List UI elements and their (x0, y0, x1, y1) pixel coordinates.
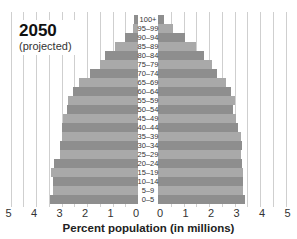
bar-right (158, 87, 231, 96)
bar-right (158, 186, 243, 195)
bar-right (158, 159, 242, 168)
bar-right (158, 168, 243, 177)
bar-right (158, 132, 241, 141)
bar-right (158, 60, 212, 69)
age-label: 15–19 (137, 168, 159, 177)
bar-left (50, 195, 138, 204)
bar-left (51, 168, 138, 177)
x-tick-label: 1 (179, 207, 193, 219)
x-tick-label: 2 (204, 207, 218, 219)
age-label: 95–99 (137, 24, 159, 33)
gridline (247, 12, 248, 207)
bar-right (158, 24, 173, 33)
bar-left (54, 159, 138, 168)
bar-right (158, 114, 236, 123)
age-label: 85–89 (137, 42, 159, 51)
bar-left (68, 96, 138, 105)
bar-left (53, 177, 138, 186)
bar-left (53, 186, 138, 195)
age-label: 80–84 (137, 51, 159, 60)
bar-right (158, 69, 217, 78)
gridline (286, 12, 287, 207)
x-tick-label: 3 (230, 207, 244, 219)
title-box: 2050 (projected) (16, 20, 75, 55)
population-pyramid-chart: 100+95–9990–9485–8980–8475–7970–7465–696… (0, 0, 297, 239)
x-tick-label: 5 (281, 207, 295, 219)
bar-left (62, 123, 139, 132)
x-tick-label: 2 (78, 207, 92, 219)
bar-left (73, 87, 138, 96)
x-tick-label: 1 (104, 207, 118, 219)
age-label: 25–29 (137, 150, 159, 159)
bar-right (158, 78, 226, 87)
bar-right (158, 96, 235, 105)
x-tick-label: 0 (129, 207, 143, 219)
bar-right (158, 177, 243, 186)
bar-left (62, 132, 139, 141)
bar-right (158, 105, 233, 114)
age-label: 0–5 (137, 195, 159, 204)
bar-right (158, 33, 185, 42)
bar-left (67, 105, 138, 114)
bar-left (115, 42, 138, 51)
age-label: 50–54 (137, 105, 159, 114)
bar-right (158, 42, 196, 51)
age-label: 20–24 (137, 159, 159, 168)
age-label: 60–64 (137, 87, 159, 96)
gridline (11, 12, 12, 207)
age-label: 45–49 (137, 114, 159, 123)
age-label: 30–34 (137, 141, 159, 150)
bar-right (158, 51, 204, 60)
age-label: 5–9 (137, 186, 159, 195)
x-tick-label: 4 (27, 207, 41, 219)
bar-right (158, 141, 242, 150)
chart-title: 2050 (19, 22, 72, 40)
age-label: 35–39 (137, 132, 159, 141)
bar-left (63, 114, 138, 123)
bar-left (90, 69, 138, 78)
age-label: 65–69 (137, 78, 159, 87)
bar-right (158, 150, 241, 159)
bar-right (158, 123, 238, 132)
x-axis-label: Percent population (in millions) (0, 222, 297, 234)
x-tick-label: 3 (53, 207, 67, 219)
bar-left (60, 141, 138, 150)
x-tick-label: 5 (2, 207, 16, 219)
age-label: 55–59 (137, 96, 159, 105)
bar-left (79, 78, 138, 87)
age-label: 90–94 (137, 33, 159, 42)
age-label: 40–44 (137, 123, 159, 132)
age-label: 10–14 (137, 177, 159, 186)
bar-left (100, 60, 138, 69)
bar-left (60, 150, 138, 159)
bar-left (105, 51, 138, 60)
age-label: 75–79 (137, 60, 159, 69)
x-tick-label: 0 (153, 207, 167, 219)
age-label: 100+ (137, 15, 159, 24)
gridline (260, 12, 261, 207)
age-label: 70–74 (137, 69, 159, 78)
chart-subtitle: (projected) (19, 40, 72, 53)
x-tick-label: 4 (255, 207, 269, 219)
bar-right (158, 195, 245, 204)
gridline (273, 12, 274, 207)
